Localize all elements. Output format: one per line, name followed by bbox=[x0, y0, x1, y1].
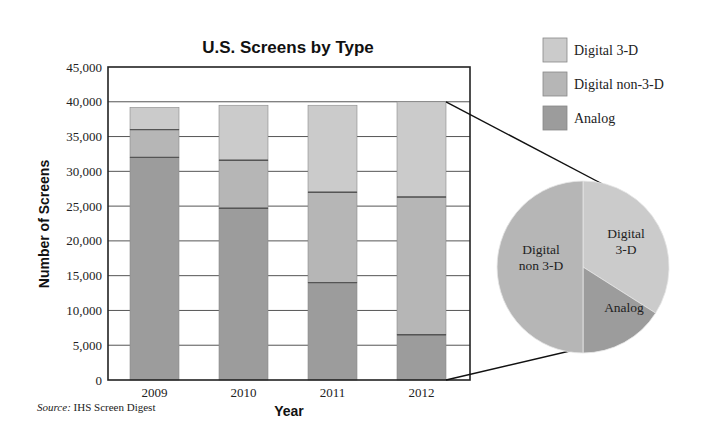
x-axis-title: Year bbox=[274, 403, 304, 419]
y-axis-title: Number of Screens bbox=[36, 160, 52, 289]
y-tick-label: 15,000 bbox=[66, 268, 102, 283]
bar-2012 bbox=[397, 102, 446, 380]
bar-segment-analog bbox=[219, 208, 268, 380]
y-tick-label: 45,000 bbox=[66, 60, 102, 75]
bar-segment-digital-3-d bbox=[308, 105, 357, 192]
x-tick-label: 2011 bbox=[320, 385, 346, 400]
x-axis-ticks: 2009201020112012 bbox=[142, 385, 435, 400]
y-tick-label: 30,000 bbox=[66, 164, 102, 179]
legend-swatch bbox=[543, 72, 567, 96]
legend-swatch bbox=[543, 38, 567, 62]
y-tick-label: 40,000 bbox=[66, 94, 102, 109]
y-tick-label: 5,000 bbox=[73, 338, 102, 353]
y-tick-label: 35,000 bbox=[66, 129, 102, 144]
bar-segment-digital-non-3-d bbox=[397, 197, 446, 335]
legend-label: Digital non-3-D bbox=[574, 77, 664, 92]
bar-segment-analog bbox=[130, 157, 179, 380]
y-axis-ticks: 05,00010,00015,00020,00025,00030,00035,0… bbox=[66, 60, 102, 388]
y-tick-label: 25,000 bbox=[66, 199, 102, 214]
bar-segment-digital-3-d bbox=[219, 105, 268, 160]
source-note: Source: IHS Screen Digest bbox=[37, 401, 155, 413]
legend-label: Analog bbox=[574, 111, 615, 126]
bar-segment-digital-non-3-d bbox=[130, 130, 179, 158]
bar-2010 bbox=[219, 105, 268, 380]
pie-label: Digitalnon 3-D bbox=[519, 242, 564, 273]
bar-segment-digital-3-d bbox=[130, 107, 179, 129]
bar-segment-digital-non-3-d bbox=[308, 192, 357, 282]
x-tick-label: 2012 bbox=[409, 385, 435, 400]
bar-segment-digital-non-3-d bbox=[219, 160, 268, 208]
source-prefix: Source: bbox=[37, 401, 71, 413]
bar-segment-analog bbox=[397, 335, 446, 380]
chart-canvas: U.S. Screens by Type 05,00010,00015,0002… bbox=[0, 0, 701, 448]
y-tick-label: 0 bbox=[96, 373, 103, 388]
x-tick-label: 2010 bbox=[231, 385, 257, 400]
pie-chart-2012: Digital3-DAnalogDigitalnon 3-D bbox=[497, 181, 669, 353]
bar-2011 bbox=[308, 105, 357, 380]
source-text: IHS Screen Digest bbox=[71, 401, 156, 413]
legend: Digital 3-DDigital non-3-DAnalog bbox=[543, 38, 664, 130]
bar-2009 bbox=[130, 107, 179, 380]
bar-segment-digital-3-d bbox=[397, 102, 446, 197]
pie-label: Analog bbox=[604, 300, 644, 315]
y-tick-label: 10,000 bbox=[66, 303, 102, 318]
x-tick-label: 2009 bbox=[142, 385, 168, 400]
y-tick-label: 20,000 bbox=[66, 233, 102, 248]
chart-title: U.S. Screens by Type bbox=[202, 38, 374, 57]
legend-label: Digital 3-D bbox=[574, 43, 638, 58]
legend-swatch bbox=[543, 106, 567, 130]
bar-segment-analog bbox=[308, 283, 357, 380]
